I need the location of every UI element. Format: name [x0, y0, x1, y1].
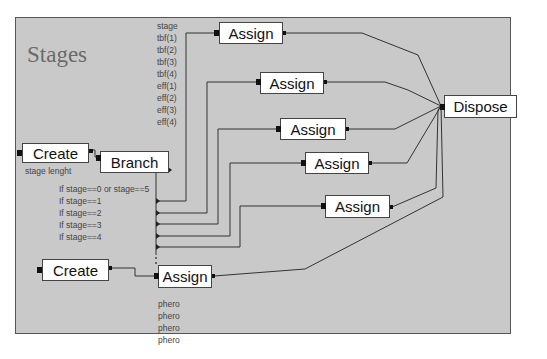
branch-condition: If stage==4 [59, 231, 149, 243]
create-phero-input-port [37, 267, 42, 273]
assign-variable: tbf(1) [157, 32, 178, 44]
create-input-port [17, 150, 22, 156]
dispose-block-label: Dispose [453, 98, 507, 115]
create-block[interactable]: Create [22, 143, 89, 163]
assign-block-5[interactable]: Assign [325, 195, 390, 218]
assign1-variables: stage tbf(1) tbf(2) tbf(3) tbf(4) eff(1)… [157, 20, 178, 128]
assign-block-3[interactable]: Assign [280, 118, 346, 140]
assign-block-label: Assign [290, 121, 335, 138]
assign5-output-port [390, 205, 393, 209]
assign-phero-output-port [212, 274, 215, 278]
branch-block[interactable]: Branch [100, 151, 169, 173]
create-caption: stage lenght [25, 165, 71, 177]
branch-condition: If stage==0 or stage==5 [59, 183, 149, 195]
assign-block-2[interactable]: Assign [260, 72, 324, 94]
assign-phero-variables: phero phero phero phero [158, 298, 180, 346]
create-phero-block[interactable]: Create [42, 259, 109, 281]
create-phero-output-port [109, 266, 112, 270]
dispose-block[interactable]: Dispose [444, 95, 517, 118]
assign2-output-port [324, 80, 327, 84]
assign1-input-port [214, 30, 219, 36]
assign-variable: stage [157, 20, 178, 32]
branch-condition: If stage==1 [59, 195, 149, 207]
assign-variable: phero [158, 298, 180, 310]
assign-variable: tbf(4) [157, 68, 178, 80]
branch-block-label: Branch [111, 154, 159, 171]
assign-block-label: Assign [269, 75, 314, 92]
assign-block-4[interactable]: Assign [305, 152, 369, 174]
assign-phero-label: Assign [162, 268, 207, 285]
assign4-input-port [301, 160, 306, 166]
create-phero-label: Create [53, 262, 98, 279]
assign-phero-input-port [154, 273, 159, 279]
assign-block-label: Assign [314, 155, 359, 172]
assign2-input-port [256, 79, 261, 85]
assign4-output-port [369, 161, 372, 165]
branch-condition: If stage==3 [59, 219, 149, 231]
assign-block-label: Assign [335, 198, 380, 215]
assign5-input-port [321, 203, 326, 209]
model-canvas[interactable] [15, 17, 511, 334]
assign3-input-port [276, 126, 281, 132]
assign-variable: tbf(3) [157, 56, 178, 68]
assign-block-label: Assign [228, 25, 273, 42]
branch-conditions: If stage==0 or stage==5 If stage==1 If s… [59, 183, 149, 243]
assign1-output-port [283, 31, 286, 35]
branch-condition: If stage==2 [59, 207, 149, 219]
assign-variable: phero [158, 310, 180, 322]
assign-phero-block[interactable]: Assign [158, 265, 212, 288]
assign-variable: eff(2) [157, 92, 178, 104]
assign-variable: tbf(2) [157, 44, 178, 56]
assign-block-1[interactable]: Assign [219, 22, 283, 44]
assign-variable: phero [158, 322, 180, 334]
assign-variable: phero [158, 334, 180, 346]
branch-input-port [96, 155, 101, 161]
dispose-input-port [440, 104, 445, 110]
assign-variable: eff(3) [157, 104, 178, 116]
assign3-output-port [346, 127, 349, 131]
diagram-title: Stages [27, 42, 87, 68]
assign-variable: eff(4) [157, 116, 178, 128]
assign-variable: eff(1) [157, 80, 178, 92]
create-block-label: Create [33, 145, 78, 162]
create-output-port [89, 149, 93, 153]
